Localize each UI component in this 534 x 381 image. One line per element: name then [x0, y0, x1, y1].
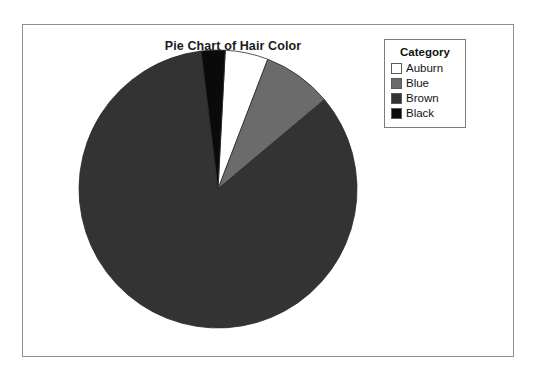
legend-items: AuburnBlueBrownBlack	[391, 61, 459, 121]
pie-slice-group	[79, 50, 357, 328]
legend: Category AuburnBlueBrownBlack	[384, 39, 466, 128]
legend-title: Category	[391, 45, 459, 59]
pie-chart-screenshot: Pie Chart of Hair Color Category AuburnB…	[0, 0, 534, 381]
pie-chart	[73, 44, 363, 334]
plot-frame: Pie Chart of Hair Color Category AuburnB…	[22, 24, 514, 357]
legend-item-brown[interactable]: Brown	[391, 91, 459, 106]
pie-svg	[73, 44, 363, 334]
legend-swatch-icon	[391, 78, 402, 89]
legend-item-blue[interactable]: Blue	[391, 76, 459, 91]
legend-item-black[interactable]: Black	[391, 106, 459, 121]
legend-item-label: Blue	[406, 77, 429, 90]
legend-swatch-icon	[391, 63, 402, 74]
legend-item-label: Brown	[406, 92, 439, 105]
legend-item-label: Black	[406, 107, 434, 120]
legend-item-auburn[interactable]: Auburn	[391, 61, 459, 76]
legend-swatch-icon	[391, 93, 402, 104]
legend-swatch-icon	[391, 108, 402, 119]
legend-item-label: Auburn	[406, 62, 443, 75]
